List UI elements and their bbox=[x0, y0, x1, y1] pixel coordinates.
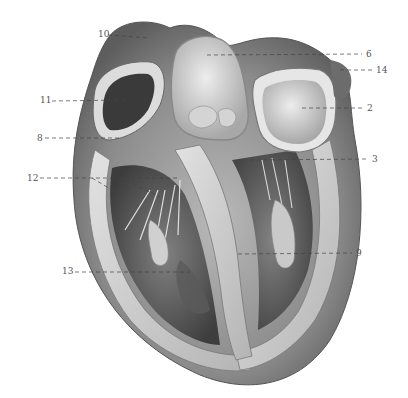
label-9: 9 bbox=[356, 248, 362, 258]
label-11: 11 bbox=[40, 95, 51, 105]
heart-illustration bbox=[0, 0, 408, 398]
aortic-valve-cusps bbox=[189, 106, 236, 128]
label-13: 13 bbox=[62, 266, 73, 276]
label-3: 3 bbox=[372, 154, 378, 164]
label-14: 14 bbox=[376, 65, 387, 75]
label-2: 2 bbox=[367, 103, 373, 113]
label-8: 8 bbox=[37, 133, 43, 143]
label-6: 6 bbox=[366, 49, 372, 59]
label-12: 12 bbox=[27, 173, 38, 183]
left-atrium-cavity bbox=[262, 80, 326, 144]
label-10: 10 bbox=[98, 29, 109, 39]
